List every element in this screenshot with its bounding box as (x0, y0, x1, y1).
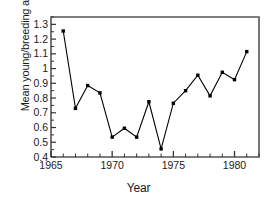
data-point-marker (196, 74, 199, 77)
plot-area (0, 0, 277, 204)
data-point-marker (86, 84, 89, 87)
data-point-marker (208, 94, 211, 97)
data-point-marker (62, 29, 65, 32)
data-point-marker (245, 50, 248, 53)
plot-frame (51, 17, 259, 157)
chart-container: Mean young/breeding area Year 0.40.50.60… (0, 0, 277, 204)
data-point-marker (159, 147, 162, 150)
data-series-line (63, 31, 247, 149)
data-point-marker (135, 135, 138, 138)
data-point-marker (233, 78, 236, 81)
data-point-marker (123, 127, 126, 130)
data-point-marker (147, 100, 150, 103)
data-point-marker (184, 89, 187, 92)
data-point-marker (221, 71, 224, 74)
data-point-marker (172, 102, 175, 105)
data-point-marker (110, 135, 113, 138)
data-point-marker (74, 107, 77, 110)
data-point-marker (98, 91, 101, 94)
